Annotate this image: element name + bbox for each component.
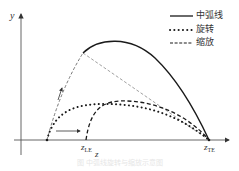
legend-label-rotation: 旋转 — [196, 25, 214, 34]
rotation-chord-line — [83, 53, 209, 140]
scaled-curve-dashed — [86, 101, 209, 140]
y-axis-label: y — [10, 11, 14, 21]
z-te-label: zTE — [204, 143, 215, 153]
figure-caption: 图 中弧线旋转与缩放示意图 — [30, 160, 210, 167]
legend-label-camber: 中弧线 — [196, 11, 223, 20]
rotated-curve-dotted — [47, 104, 209, 140]
z-le-subscript: LE — [85, 147, 92, 153]
legend-label-scaling: 缩放 — [196, 38, 214, 47]
camber-line-solid — [83, 41, 209, 140]
z-te-subscript: TE — [208, 147, 215, 153]
rotation-direction-arrow — [58, 88, 62, 100]
rotation-path-dashed — [47, 53, 83, 140]
leading-edge-point — [46, 139, 49, 142]
trailing-edge-point — [208, 139, 211, 142]
z-le-label: zLE — [81, 143, 92, 153]
z-axis-label: z — [95, 150, 99, 159]
